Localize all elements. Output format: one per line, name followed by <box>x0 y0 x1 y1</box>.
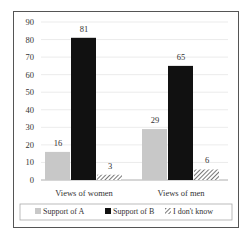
svg-text:16: 16 <box>54 138 63 148</box>
bar <box>168 66 193 180</box>
svg-text:90: 90 <box>26 17 35 27</box>
bar <box>97 175 122 180</box>
svg-text:80: 80 <box>26 35 35 45</box>
svg-text:20: 20 <box>26 140 35 150</box>
svg-text:65: 65 <box>177 52 186 62</box>
svg-text:50: 50 <box>26 87 35 97</box>
bar <box>142 129 167 180</box>
svg-text:3: 3 <box>108 161 112 171</box>
svg-text:81: 81 <box>80 24 89 34</box>
bar <box>194 169 219 180</box>
svg-text:10: 10 <box>26 157 35 167</box>
bar <box>45 152 70 180</box>
svg-text:I don't know: I don't know <box>173 207 213 216</box>
svg-text:29: 29 <box>151 115 160 125</box>
svg-text:Views of men: Views of men <box>157 188 205 198</box>
svg-text:0: 0 <box>30 175 34 185</box>
svg-text:70: 70 <box>26 52 35 62</box>
bar-chart: 0102030405060708090 1681329656 Views of … <box>0 0 247 247</box>
svg-text:Views of women: Views of women <box>55 188 113 198</box>
svg-text:Support of A: Support of A <box>43 207 85 216</box>
svg-text:Support of B: Support of B <box>113 207 154 216</box>
bars <box>45 38 219 180</box>
svg-text:40: 40 <box>26 105 35 115</box>
svg-text:6: 6 <box>205 155 209 165</box>
y-axis-ticks: 0102030405060708090 <box>26 17 35 185</box>
svg-text:30: 30 <box>26 122 35 132</box>
bar <box>71 38 96 180</box>
legend: Support of ASupport of BI don't know <box>35 207 213 216</box>
svg-text:60: 60 <box>26 70 35 80</box>
x-axis-labels: Views of womenViews of men <box>55 188 205 198</box>
